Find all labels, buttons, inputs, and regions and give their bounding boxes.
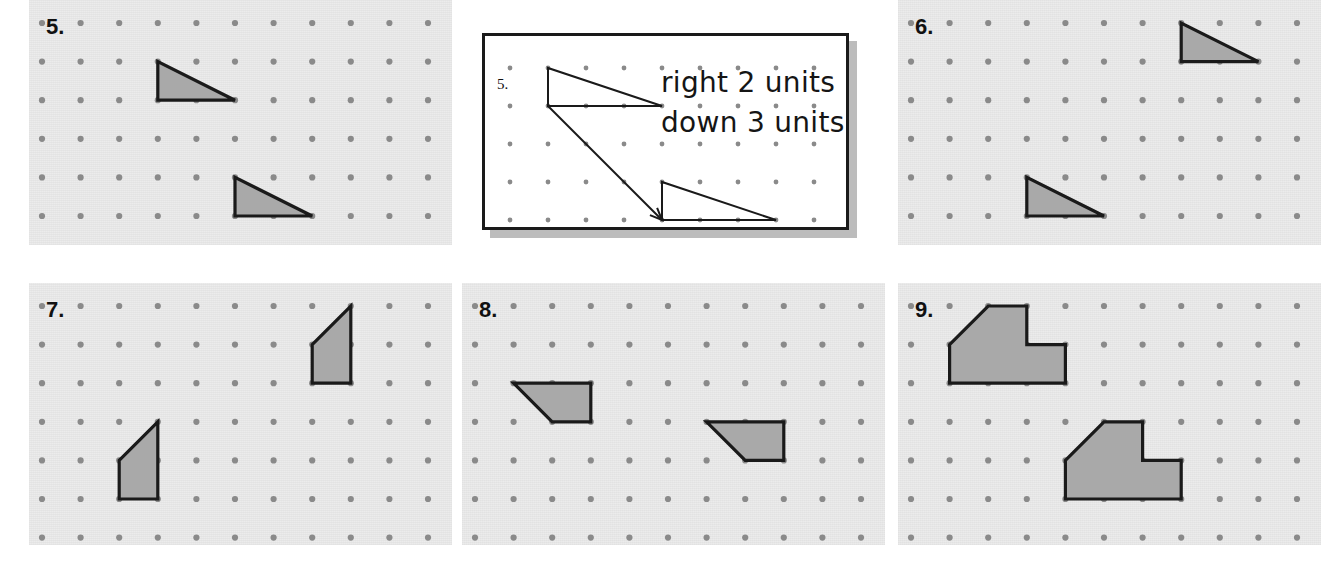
grid-dot bbox=[232, 136, 238, 142]
grid-dot bbox=[704, 303, 710, 309]
grid-dot bbox=[271, 496, 277, 502]
dot-grid-6 bbox=[898, 0, 1321, 245]
grid-dot bbox=[985, 97, 991, 103]
grid-dot bbox=[626, 496, 632, 502]
grid-dot bbox=[1062, 535, 1068, 541]
grid-dot bbox=[39, 97, 45, 103]
grid-dot bbox=[271, 136, 277, 142]
grid-dot bbox=[1178, 342, 1184, 348]
dot-grid-8 bbox=[462, 283, 885, 545]
grid-dot bbox=[271, 380, 277, 386]
grid-dot bbox=[348, 59, 354, 65]
source-triangle bbox=[158, 62, 235, 101]
callout-card: 5. right 2 units down 3 units bbox=[482, 33, 849, 230]
grid-dot bbox=[78, 419, 84, 425]
grid-dot bbox=[193, 496, 199, 502]
dot-grid-7 bbox=[29, 283, 452, 545]
grid-dot bbox=[947, 419, 953, 425]
grid-dot bbox=[1294, 213, 1300, 219]
grid-dot bbox=[626, 342, 632, 348]
grid-dot bbox=[116, 303, 122, 309]
grid-dot bbox=[1255, 457, 1261, 463]
grid-dot bbox=[271, 419, 277, 425]
grid-dot bbox=[39, 174, 45, 180]
grid-dot bbox=[116, 535, 122, 541]
grid-dot bbox=[1024, 419, 1030, 425]
grid-dot bbox=[665, 535, 671, 541]
grid-dot bbox=[588, 535, 594, 541]
grid-dot bbox=[1101, 535, 1107, 541]
grid-dot bbox=[704, 535, 710, 541]
grid-dot bbox=[78, 213, 84, 219]
grid-dot bbox=[1217, 380, 1223, 386]
grid-dot bbox=[1101, 380, 1107, 386]
grid-dot bbox=[1217, 535, 1223, 541]
grid-dot bbox=[546, 180, 551, 185]
grid-dot bbox=[232, 457, 238, 463]
grid-dot bbox=[348, 535, 354, 541]
grid-dot bbox=[1255, 20, 1261, 26]
grid-dot bbox=[1294, 380, 1300, 386]
callout-source-triangle bbox=[548, 68, 662, 106]
grid-dot bbox=[665, 303, 671, 309]
grid-dot bbox=[78, 20, 84, 26]
grid-dot bbox=[858, 496, 864, 502]
grid-dot bbox=[78, 342, 84, 348]
grid-dot bbox=[1255, 136, 1261, 142]
grid-dot bbox=[985, 20, 991, 26]
grid-dot bbox=[348, 20, 354, 26]
grid-dot bbox=[425, 213, 431, 219]
grid-dot bbox=[1062, 174, 1068, 180]
grid-dot bbox=[193, 457, 199, 463]
grid-dot bbox=[1255, 419, 1261, 425]
grid-dot bbox=[1101, 20, 1107, 26]
grid-dot bbox=[1217, 213, 1223, 219]
grid-dot bbox=[39, 419, 45, 425]
grid-dot bbox=[116, 59, 122, 65]
grid-dot bbox=[116, 136, 122, 142]
grid-dot bbox=[985, 136, 991, 142]
grid-dot bbox=[704, 380, 710, 386]
grid-dot bbox=[736, 180, 741, 185]
grid-dot bbox=[908, 20, 914, 26]
grid-dot bbox=[1062, 136, 1068, 142]
grid-dot bbox=[193, 136, 199, 142]
grid-dot bbox=[1178, 419, 1184, 425]
grid-dot bbox=[665, 380, 671, 386]
image-triangle bbox=[1027, 177, 1104, 216]
grid-dot bbox=[908, 59, 914, 65]
source-trapezoid bbox=[312, 306, 351, 383]
grid-dot bbox=[742, 535, 748, 541]
grid-dot bbox=[549, 342, 555, 348]
grid-dot bbox=[472, 535, 478, 541]
instruction-callout: 5. right 2 units down 3 units bbox=[482, 33, 849, 230]
callout-line-1: right 2 units bbox=[661, 63, 849, 103]
grid-dot bbox=[742, 496, 748, 502]
grid-dot bbox=[472, 342, 478, 348]
grid-dot bbox=[858, 457, 864, 463]
grid-dot bbox=[985, 174, 991, 180]
grid-dot bbox=[626, 303, 632, 309]
grid-dot bbox=[1062, 20, 1068, 26]
grid-dot bbox=[232, 496, 238, 502]
grid-dot bbox=[1178, 303, 1184, 309]
grid-dot bbox=[704, 342, 710, 348]
grid-dot bbox=[781, 535, 787, 541]
grid-dot bbox=[1101, 174, 1107, 180]
grid-dot bbox=[1217, 457, 1223, 463]
grid-dot bbox=[947, 136, 953, 142]
translation-arrow-shaft bbox=[548, 106, 662, 220]
grid-dot bbox=[232, 419, 238, 425]
grid-dot bbox=[472, 496, 478, 502]
grid-dot bbox=[985, 419, 991, 425]
grid-dot bbox=[386, 380, 392, 386]
grid-dot bbox=[309, 496, 315, 502]
grid-dot bbox=[193, 303, 199, 309]
grid-dot bbox=[947, 97, 953, 103]
grid-dot bbox=[1140, 303, 1146, 309]
grid-dot bbox=[193, 380, 199, 386]
grid-dot bbox=[1294, 496, 1300, 502]
grid-dot bbox=[985, 457, 991, 463]
grid-dot bbox=[155, 535, 161, 541]
grid-dot bbox=[1140, 535, 1146, 541]
